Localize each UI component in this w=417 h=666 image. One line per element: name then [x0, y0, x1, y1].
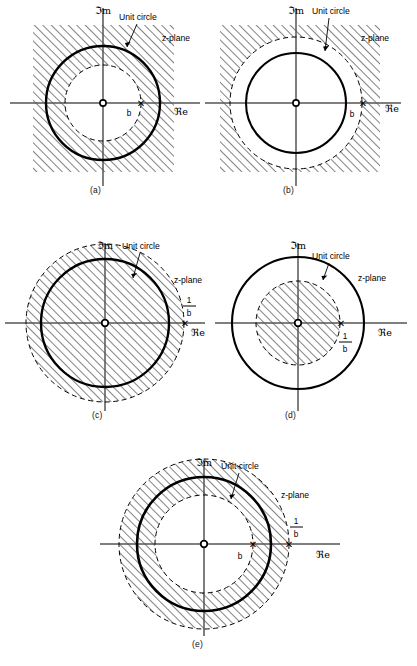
unit-circle-label: Unit circle [119, 12, 157, 22]
panel-c-diagram: ✕ 1 b ℑm ℜe Unit circle z-plane [0, 215, 215, 420]
origin-marker [100, 100, 106, 106]
z-plane-label: z-plane [361, 33, 389, 43]
pole-label-inv-b: 1 b [339, 332, 352, 354]
real-axis-label: ℜe [174, 106, 188, 117]
panel-b-diagram: ✕ b ℑm ℜe Unit circle z-plane [205, 0, 417, 200]
real-axis-label: ℜe [191, 327, 205, 338]
pole-marker-b: ✕ [249, 539, 257, 550]
unit-circle-arrow-icon [321, 275, 327, 280]
unit-circle-label: Unit circle [221, 461, 259, 471]
pole-label-b: b [238, 552, 243, 561]
imaginary-axis-label: ℑm [97, 240, 113, 251]
panel-d-caption: (d) [285, 410, 296, 420]
pole-label-b: b [127, 109, 132, 118]
panel-d-diagram: ✕ 1 b ℑm ℜe Unit circle z-plane [215, 215, 417, 420]
unit-circle-label: Unit circle [122, 241, 160, 251]
origin-marker [295, 320, 302, 327]
real-axis-label: ℜe [378, 327, 392, 338]
real-axis-label: ℜe [316, 549, 330, 560]
panel-b-caption: (b) [283, 185, 294, 195]
panel-d: ✕ 1 b ℑm ℜe Unit circle z-plane (d) [215, 215, 417, 435]
imaginary-axis-label: ℑm [196, 457, 212, 468]
origin-marker [102, 320, 109, 327]
pole-label-numerator: 1 [187, 296, 192, 305]
pole-label-inv-b: 1 b [290, 517, 303, 539]
panel-b: ✕ b ℑm ℜe Unit circle z-plane (b) [205, 0, 417, 210]
real-axis-label: ℜe [385, 103, 399, 114]
pole-label-denominator: b [343, 345, 348, 354]
origin-marker [201, 541, 208, 548]
panel-c-caption: (c) [92, 410, 103, 420]
roc-region-b [220, 25, 380, 172]
pole-marker-b: ✕ [359, 98, 367, 109]
panel-e-caption: (e) [192, 639, 203, 649]
unit-circle-label: Unit circle [312, 6, 350, 16]
z-plane-label: z-plane [162, 33, 190, 43]
pole-label-denominator: b [187, 309, 192, 318]
panel-e: ✕ b ✕ 1 b ℑm ℜe Unit circle z-plane (e) [100, 432, 417, 666]
panel-a-diagram: ✕ b ℑm ℜe Unit circle z-plane [0, 0, 210, 200]
panel-c: ✕ 1 b ℑm ℜe Unit circle z-plane (c) [0, 215, 215, 435]
panel-e-diagram: ✕ b ✕ 1 b ℑm ℜe Unit circle z-plane [100, 432, 417, 652]
pole-marker-inv-b: ✕ [285, 539, 293, 550]
panel-a: ✕ b ℑm ℜe Unit circle z-plane (a) [0, 0, 210, 210]
unit-circle-label: Unit circle [312, 251, 350, 261]
imaginary-axis-label: ℑm [95, 5, 111, 16]
pole-label-numerator: 1 [294, 517, 299, 526]
z-plane-label: z-plane [174, 275, 202, 285]
imaginary-axis-label: ℑm [288, 5, 304, 16]
pole-marker-inv-b: ✕ [337, 318, 345, 329]
panel-a-caption: (a) [90, 185, 101, 195]
origin-marker [293, 100, 299, 106]
imaginary-axis-label: ℑm [290, 240, 306, 251]
pole-marker-inv-b: ✕ [181, 318, 189, 329]
z-plane-label: z-plane [281, 490, 309, 500]
pole-label-inv-b: 1 b [183, 296, 196, 318]
pole-label-b: b [350, 110, 355, 119]
pole-label-denominator: b [294, 530, 299, 539]
pole-marker-b: ✕ [137, 98, 145, 109]
zplane-roc-figure: ✕ b ℑm ℜe Unit circle z-plane (a) [0, 0, 417, 666]
z-plane-label: z-plane [358, 273, 386, 283]
pole-label-numerator: 1 [343, 332, 348, 341]
